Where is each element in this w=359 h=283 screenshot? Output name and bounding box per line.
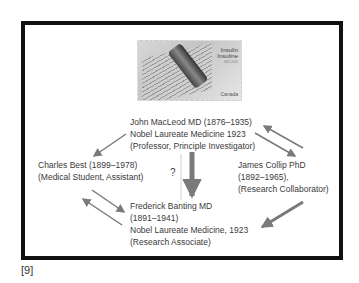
arrow-banting-to-best xyxy=(83,199,122,225)
arrow-collip-to-macleod xyxy=(264,126,303,148)
arrow-macleod-to-best xyxy=(94,134,126,156)
arrow-macleod-to-collip xyxy=(255,133,295,156)
relationship-arrows xyxy=(0,0,359,283)
reference-label: [9] xyxy=(21,264,33,276)
arrow-collip-to-banting xyxy=(262,202,303,227)
